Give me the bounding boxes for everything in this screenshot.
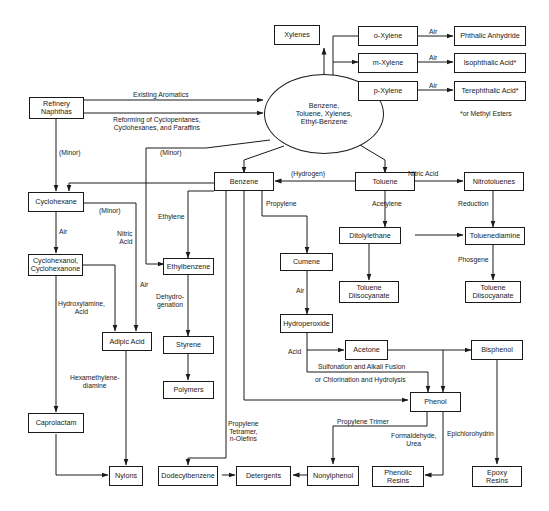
node-ethylbenzene: Ethylbenzene	[163, 258, 214, 275]
label-air-o-xylene: Air	[429, 28, 437, 36]
node-nonylphenol: Nonylphenol	[307, 466, 359, 486]
node-phthalic-anhydride: Phthalic Anhydride	[454, 26, 526, 46]
label-minor-refinery: (Minor)	[59, 149, 81, 157]
node-o-xylene: o-Xylene	[358, 26, 418, 46]
node-ditolylethane: Ditolylethane	[339, 227, 401, 244]
node-phenolic-resins: Phenolic Resins	[372, 466, 424, 487]
label-phosgene: Phosgene	[458, 256, 489, 264]
label-minor-hub: (Minor)	[160, 149, 182, 157]
node-adipic-acid: Adipic Acid	[102, 332, 152, 351]
label-propylene-trimer: Propylene Trimer	[337, 418, 389, 426]
node-toluene-diisocyanate-right: Toluene Diisocyanate	[465, 281, 521, 303]
label-hydrogen: (Hydrogen)	[291, 170, 325, 178]
node-styrene: Styrene	[163, 336, 214, 354]
node-cyclohexanol-cyclohexanone: Cyclohexanol, Cyclohexanone	[28, 254, 83, 276]
node-m-xylene: m-Xylene	[358, 53, 418, 73]
label-propylene-tetramer: Propylene Tetramer, n-Olefins	[228, 420, 259, 443]
label-existing-aromatics: Existing Aromatics	[133, 91, 189, 99]
label-ethylene: Ethylene	[158, 213, 184, 221]
label-nitric-acid-adipic: Nitric Acid	[117, 230, 132, 245]
node-isophthalic-acid: Isophthalic Acid*	[454, 53, 526, 73]
label-acid: Acid	[288, 348, 301, 356]
node-polymers: Polymers	[163, 381, 214, 399]
label-minor-cyclohexane: (Minor)	[99, 207, 121, 215]
node-xylenes: Xylenes	[274, 25, 320, 45]
label-sulfonation: Sulfonation and Alkali Fusion	[318, 363, 405, 371]
node-hydroperoxide: Hydroperoxide	[280, 314, 333, 333]
label-acetylene: Acetylene	[372, 200, 402, 208]
footnote-methyl-esters: *or Methyl Esters	[460, 110, 512, 118]
label-air-cumene: Air	[296, 287, 304, 295]
label-reduction: Reduction	[458, 200, 489, 208]
label-air-adipic: Air	[140, 281, 148, 289]
label-dehydrogenation: Dehydro- genation	[156, 293, 184, 308]
node-epoxy-resins: Epoxy Resins	[472, 466, 522, 487]
node-caprolactam: Caprolactam	[28, 413, 84, 433]
label-chlorination: or Chlorination and Hydrolysis	[315, 376, 406, 384]
node-dodecylbenzene: Dodecylbenzene	[158, 466, 218, 486]
label-reforming: Reforming of Cyclopentanes, Cyclohexanes…	[113, 116, 201, 131]
node-refinery-naphthas: Refinery Naphthas	[29, 97, 84, 119]
node-acetone: Acetone	[345, 340, 388, 360]
label-hexamethylenediamine: Hexamethylene- diamine	[70, 374, 120, 389]
label-air-m-xylene: Air	[429, 54, 437, 62]
node-cyclohexane: Cyclohexane	[28, 192, 84, 212]
label-epichlorohydrin: Epichlorohydrin	[447, 430, 494, 438]
node-nitrotoluenes: Nitrotoluenes	[464, 172, 524, 191]
node-cumene: Cumene	[280, 253, 333, 271]
node-terephthalic-acid: Terephthalic Acid*	[454, 81, 526, 101]
node-phenol: Phenol	[410, 392, 461, 412]
label-nitric-acid-toluene: Nitric Acid	[408, 170, 438, 178]
node-nylons: Nylons	[109, 466, 143, 486]
node-bisphenol: Bisphenol	[471, 340, 523, 360]
node-p-xylene: p-Xylene	[358, 81, 418, 101]
node-toluenediamine: Toluenediamine	[465, 227, 525, 245]
label-hydroxylamine: Hydroxylamine, Acid	[58, 300, 105, 315]
node-benzene: Benzene	[214, 172, 274, 191]
node-detergents: Detergents	[236, 466, 291, 486]
label-propylene: Propylene	[266, 200, 297, 208]
node-toluene-diisocyanate-left: Toluene Diisocyanate	[339, 281, 399, 303]
label-formaldehyde-urea: Formaldehyde, Urea	[391, 432, 436, 447]
node-toluene: Toluene	[355, 172, 415, 191]
label-air-cyclohexane: Air	[59, 228, 67, 236]
label-air-p-xylene: Air	[429, 82, 437, 90]
